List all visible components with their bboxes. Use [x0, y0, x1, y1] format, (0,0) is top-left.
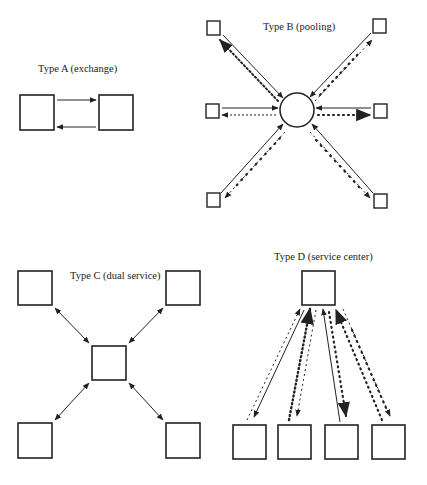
type-d-diagram	[233, 271, 405, 459]
type-b-diagram	[206, 19, 387, 208]
type-a-box-right	[99, 95, 133, 130]
type-b-pool-circle	[280, 93, 314, 127]
type-c-center-box	[92, 346, 126, 380]
type-c-diagram	[18, 271, 200, 458]
type-a-diagram	[20, 95, 133, 130]
diagram-canvas	[0, 0, 427, 485]
type-a-box-left	[20, 95, 54, 130]
type-d-center-box	[302, 271, 335, 305]
